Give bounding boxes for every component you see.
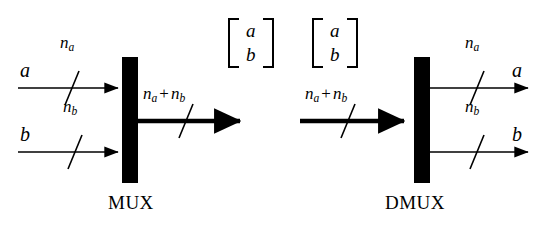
matrix-cells: a b [323,16,347,70]
dmux-input-bus-matrix: a b [312,18,358,68]
matrix-cell-a: a [246,19,256,43]
matrix-cell-b: b [330,43,340,67]
mux-input-a-width-sub: a [69,41,75,54]
dmux-output-b-width-label: nb [465,98,479,118]
dmux-group [300,57,528,183]
matrix-left-bracket [312,18,323,68]
mux-bar [122,57,138,183]
dmux-input-width-label: na+nb [305,85,347,105]
mux-input-a-width-base: n [60,33,69,52]
dmux-bar [414,57,430,183]
mux-output-bus-matrix: a b [228,18,274,68]
mux-output-width-base1: n [143,84,152,103]
matrix-right-bracket [263,18,274,68]
dmux-output-a-width-sub: a [474,41,480,54]
mux-input-b-width-base: n [63,97,72,116]
mux-output-width-sub2: b [179,92,185,105]
dmux-output-a-width-label: na [465,34,479,54]
dmux-input-width-operator: + [319,84,333,103]
dmux-block-label: DMUX [385,192,445,214]
dmux-output-b-signal-label: b [512,124,522,144]
mux-output-width-operator: + [157,84,171,103]
mux-input-a-signal-label: a [20,60,30,80]
mux-input-b-signal-label: b [20,124,30,144]
dmux-input-width-sub2: b [341,92,347,105]
mux-input-b-width-label: nb [63,98,77,118]
mux-dmux-diagram: a na b nb na+nb a b MUX a b na+nb na a n… [0,0,545,233]
mux-block-label: MUX [108,192,154,214]
matrix-right-bracket [347,18,358,68]
dmux-output-a-signal-label: a [512,60,522,80]
mux-output-width-label: na+nb [143,85,185,105]
dmux-output-b-width-base: n [465,97,474,116]
mux-group [18,57,240,183]
matrix-cells: a b [239,16,263,70]
dmux-output-a-width-base: n [465,33,474,52]
dmux-output-b-width-sub: b [474,105,480,118]
mux-input-a-width-label: na [60,34,74,54]
matrix-left-bracket [228,18,239,68]
dmux-input-width-base1: n [305,84,314,103]
matrix-cell-b: b [246,43,256,67]
matrix-cell-a: a [330,19,340,43]
mux-input-b-width-sub: b [72,105,78,118]
